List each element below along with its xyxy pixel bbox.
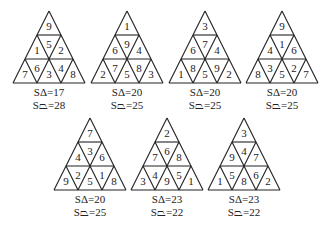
triangle-puzzle: 169427583SΔ=20S⏢=25 [87, 10, 167, 120]
cell-number: 8 [176, 151, 182, 163]
cell-number: 2 [100, 68, 106, 80]
triangle-sum-label: SΔ=23 [204, 193, 284, 205]
trapezoid-sum-label: S⏢=25 [50, 206, 130, 218]
cell-number: 3 [87, 145, 93, 157]
cell-number: 4 [214, 44, 220, 56]
triangle-puzzle: 394715862SΔ=23S⏢=22 [204, 117, 284, 227]
cell-number: 7 [303, 68, 309, 80]
cell-number: 5 [229, 169, 235, 181]
triangle-puzzle: 915276348SΔ=17S⏢=28 [9, 10, 89, 120]
cell-number: 1 [178, 68, 184, 80]
triangle-grid: 367418592 [165, 10, 245, 86]
trapezoid-sum-label: S⏢=22 [204, 206, 284, 218]
cell-number: 2 [265, 175, 271, 187]
cell-number: 9 [279, 20, 285, 32]
cell-number: 4 [152, 169, 158, 181]
trapezoid-sum-label: S⏢=25 [242, 99, 322, 111]
cell-number: 8 [70, 68, 76, 80]
cell-number: 9 [164, 175, 170, 187]
cell-number: 9 [63, 175, 69, 187]
cell-number: 3 [148, 68, 154, 80]
cell-number: 5 [87, 175, 93, 187]
cell-number: 1 [279, 38, 285, 50]
triangle-sum-label: SΔ=23 [127, 193, 207, 205]
cell-number: 7 [253, 151, 259, 163]
cell-number: 2 [164, 127, 170, 139]
cell-number: 3 [202, 20, 208, 32]
cell-number: 6 [253, 169, 259, 181]
cell-number: 4 [58, 62, 64, 74]
triangle-sum-label: SΔ=20 [242, 86, 322, 98]
triangle-sum-label: SΔ=20 [165, 86, 245, 98]
cell-number: 3 [267, 62, 273, 74]
cell-number: 2 [75, 169, 81, 181]
cell-number: 7 [202, 38, 208, 50]
cell-number: 8 [190, 62, 196, 74]
cell-number: 5 [279, 68, 285, 80]
cell-number: 5 [176, 169, 182, 181]
cell-number: 6 [164, 145, 170, 157]
cell-number: 4 [75, 151, 81, 163]
triangle-grid: 276834951 [127, 117, 207, 193]
cell-number: 6 [112, 44, 118, 56]
cell-number: 9 [229, 151, 235, 163]
cell-number: 7 [112, 62, 118, 74]
cell-number: 5 [124, 68, 130, 80]
cell-number: 7 [87, 127, 93, 139]
cell-number: 9 [124, 38, 130, 50]
cell-number: 6 [99, 151, 105, 163]
cell-number: 4 [267, 44, 273, 56]
triangle-puzzle: 941683527SΔ=20S⏢=25 [242, 10, 322, 120]
cell-number: 6 [291, 44, 297, 56]
trapezoid-sum-label: S⏢=28 [9, 99, 89, 111]
triangle-puzzle: 367418592SΔ=20S⏢=25 [165, 10, 245, 120]
triangle-grid: 394715862 [204, 117, 284, 193]
triangle-sum-label: SΔ=17 [9, 86, 89, 98]
cell-number: 9 [214, 62, 220, 74]
cell-number: 8 [136, 62, 142, 74]
cell-number: 6 [190, 44, 196, 56]
cell-number: 3 [140, 175, 146, 187]
cell-number: 1 [217, 175, 223, 187]
cell-number: 4 [136, 44, 142, 56]
cell-number: 2 [291, 62, 297, 74]
cell-number: 1 [124, 20, 130, 32]
cell-number: 3 [46, 68, 52, 80]
triangle-sum-label: SΔ=20 [87, 86, 167, 98]
trapezoid-sum-label: S⏢=25 [165, 99, 245, 111]
cell-number: 2 [226, 68, 232, 80]
cell-number: 8 [255, 68, 261, 80]
cell-number: 8 [241, 175, 247, 187]
cell-number: 1 [188, 175, 194, 187]
triangle-sum-label: SΔ=20 [50, 193, 130, 205]
cell-number: 2 [58, 44, 64, 56]
cell-number: 5 [202, 68, 208, 80]
cell-number: 9 [46, 20, 52, 32]
cell-number: 7 [152, 151, 158, 163]
cell-number: 8 [111, 175, 117, 187]
cell-number: 7 [22, 68, 28, 80]
cell-number: 1 [99, 169, 105, 181]
cell-number: 5 [46, 38, 52, 50]
triangle-grid: 169427583 [87, 10, 167, 86]
cell-number: 3 [241, 127, 247, 139]
cell-number: 6 [34, 62, 40, 74]
triangle-grid: 941683527 [242, 10, 322, 86]
triangle-grid: 915276348 [9, 10, 89, 86]
trapezoid-sum-label: S⏢=25 [87, 99, 167, 111]
cell-number: 1 [34, 44, 40, 56]
triangle-puzzle: 743692518SΔ=20S⏢=25 [50, 117, 130, 227]
triangle-puzzle: 276834951SΔ=23S⏢=22 [127, 117, 207, 227]
trapezoid-sum-label: S⏢=22 [127, 206, 207, 218]
cell-number: 4 [241, 145, 247, 157]
triangle-grid: 743692518 [50, 117, 130, 193]
